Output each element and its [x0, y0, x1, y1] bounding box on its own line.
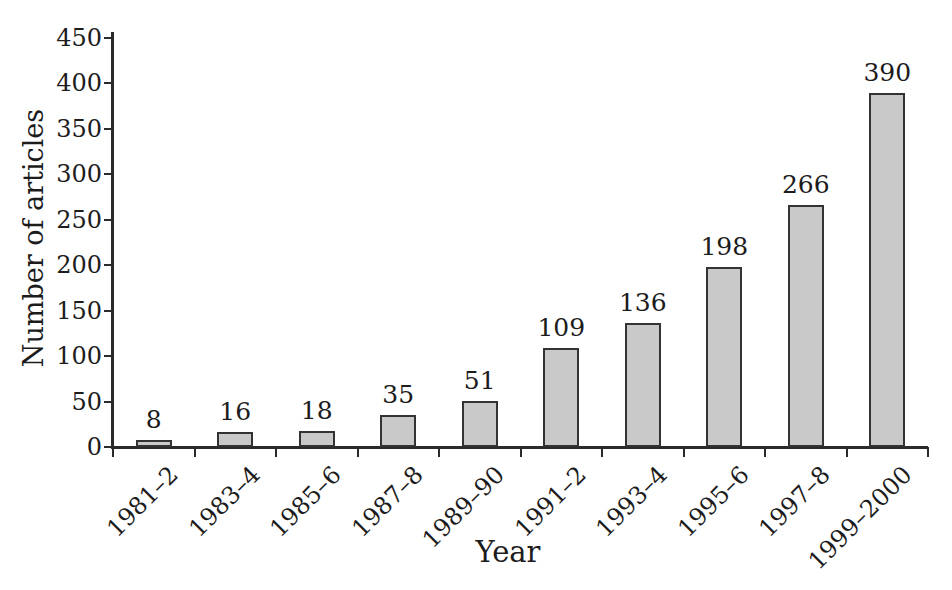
- bar: [543, 348, 579, 447]
- x-tick-label: 1993–4: [592, 462, 671, 541]
- bar-chart-figure: Number of articles 050100150200250300350…: [0, 0, 952, 590]
- x-axis-tick: [764, 447, 766, 457]
- x-tick-label: 1981–2: [103, 462, 182, 541]
- x-tick-label: 1995–6: [674, 462, 753, 541]
- x-axis-tick: [601, 447, 603, 457]
- bar-value-label: 8: [146, 406, 162, 431]
- bar: [625, 323, 661, 447]
- x-axis-title: Year: [113, 538, 903, 567]
- x-tick-label: 1991–2: [511, 462, 590, 541]
- x-axis-tick: [275, 447, 277, 457]
- x-tick-label: 1997–8: [755, 462, 834, 541]
- x-axis-tick: [112, 447, 114, 457]
- y-tick-label: 400: [56, 71, 102, 95]
- y-tick-label: 250: [56, 208, 102, 232]
- y-tick-label: 200: [56, 253, 102, 277]
- bar: [380, 415, 416, 447]
- y-axis-tick: [104, 401, 112, 403]
- bar: [869, 93, 905, 447]
- y-axis-tick: [104, 219, 112, 221]
- y-tick-label: 0: [87, 435, 102, 459]
- y-tick-label: 350: [56, 117, 102, 141]
- bar: [217, 432, 253, 447]
- bar: [706, 267, 742, 447]
- bar: [788, 205, 824, 447]
- bar: [299, 431, 335, 447]
- bar-value-label: 198: [700, 234, 748, 259]
- y-axis-tick: [104, 37, 112, 39]
- y-axis-tick: [104, 128, 112, 130]
- y-tick-label: 150: [56, 299, 102, 323]
- y-axis-title: Number of articles: [20, 109, 47, 367]
- y-axis-tick: [104, 355, 112, 357]
- bar-value-label: 35: [382, 382, 414, 407]
- y-axis-tick: [104, 173, 112, 175]
- bar-value-label: 51: [464, 367, 496, 392]
- y-tick-label: 50: [71, 390, 102, 414]
- x-axis-tick: [927, 447, 929, 457]
- x-tick-label: 1983–4: [185, 462, 264, 541]
- y-tick-label: 100: [56, 344, 102, 368]
- x-axis-tick: [683, 447, 685, 457]
- bar-value-label: 266: [782, 172, 830, 197]
- y-axis-tick: [104, 82, 112, 84]
- x-axis-tick: [438, 447, 440, 457]
- y-axis-line: [111, 32, 114, 449]
- bar-value-label: 136: [619, 290, 667, 315]
- x-axis-tick: [846, 447, 848, 457]
- y-axis-tick: [104, 264, 112, 266]
- y-tick-label: 450: [56, 26, 102, 50]
- y-axis-tick: [104, 446, 112, 448]
- x-tick-label: 1985–6: [266, 462, 345, 541]
- bar-value-label: 16: [219, 399, 251, 424]
- bar-value-label: 18: [301, 397, 333, 422]
- bar-value-label: 390: [863, 59, 911, 84]
- x-axis-tick: [520, 447, 522, 457]
- y-tick-label: 300: [56, 162, 102, 186]
- x-axis-tick: [357, 447, 359, 457]
- bar-value-label: 109: [537, 314, 585, 339]
- y-axis-tick: [104, 310, 112, 312]
- x-axis-tick: [194, 447, 196, 457]
- bar: [462, 401, 498, 447]
- bar: [136, 440, 172, 447]
- x-tick-label: 1987–8: [348, 462, 427, 541]
